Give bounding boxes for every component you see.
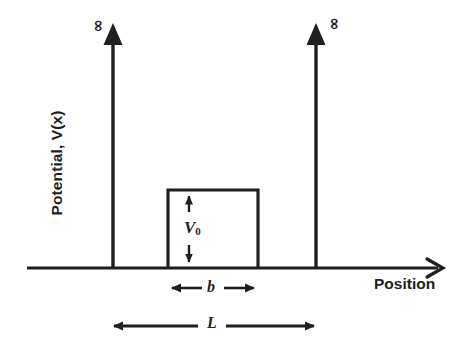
right-wall-infinity-label: ∞ (327, 16, 340, 32)
left-wall-infinity-label: ∞ (91, 18, 104, 34)
diagram-canvas (0, 0, 467, 354)
well-width-label: L (207, 315, 217, 331)
right-wall-arrowhead (307, 23, 326, 45)
potential-diagram: ∞ ∞ Potential, V(x) Position V0 b L (0, 0, 467, 354)
central-barrier (168, 190, 258, 268)
right-infinite-wall (307, 23, 326, 268)
barrier-height-label: V0 (184, 219, 201, 237)
y-axis-label: Potential, V(x) (46, 88, 68, 238)
barrier-width-label: b (207, 279, 215, 295)
x-axis-label: Position (374, 276, 435, 292)
left-infinite-wall (104, 23, 123, 268)
